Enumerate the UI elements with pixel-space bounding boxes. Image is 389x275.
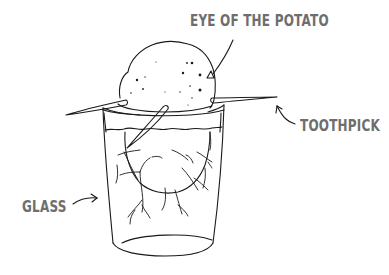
- toothpicks: [66, 97, 277, 148]
- eye-arrow: [213, 40, 233, 74]
- glass: [103, 105, 224, 256]
- potato-eye-dots: [130, 61, 201, 105]
- label-toothpick: TOOTHPICK: [300, 117, 380, 135]
- potato-glass-illustration: [0, 0, 389, 275]
- potato: [118, 42, 215, 113]
- label-eye-of-the-potato: EYE OF THE POTATO: [190, 12, 329, 30]
- submerged-potato: [125, 132, 210, 193]
- arrows: [73, 40, 295, 204]
- toothpick-right: [211, 97, 277, 103]
- toothpick-arrow: [277, 106, 295, 124]
- water-line: [105, 127, 222, 130]
- label-glass: GLASS: [22, 198, 67, 216]
